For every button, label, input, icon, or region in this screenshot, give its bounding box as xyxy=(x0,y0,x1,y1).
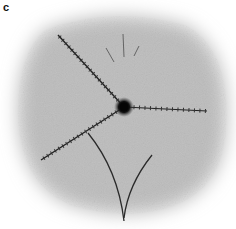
central-body xyxy=(114,97,134,117)
micrograph xyxy=(0,0,236,229)
